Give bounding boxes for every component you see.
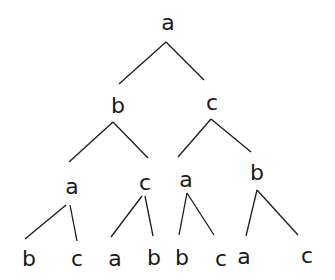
tree-node-n4: c bbox=[139, 170, 151, 195]
tree-node-n5: a bbox=[179, 167, 192, 192]
tree-node-n14: c bbox=[301, 243, 313, 268]
tree-edge-n3-n7 bbox=[25, 205, 66, 239]
tree-nodes: abcacabbcabbcac bbox=[22, 10, 313, 271]
tree-node-n11: b bbox=[175, 245, 189, 270]
tree-edge-n0-n2 bbox=[166, 42, 204, 80]
tree-node-n10: b bbox=[147, 245, 161, 270]
tree-node-n3: a bbox=[65, 174, 78, 199]
tree-node-n12: c bbox=[215, 246, 227, 271]
tree-node-n13: a bbox=[237, 244, 250, 269]
tree-edge-n3-n8 bbox=[70, 205, 77, 241]
tree-node-n1: b bbox=[111, 93, 125, 118]
tree-diagram: abcacabbcabbcac bbox=[0, 0, 335, 280]
tree-edge-n5-n11 bbox=[179, 193, 187, 235]
tree-node-n7: b bbox=[22, 246, 36, 271]
tree-edge-n4-n9 bbox=[111, 196, 142, 237]
tree-edge-n0-n1 bbox=[119, 42, 166, 84]
tree-edge-n1-n4 bbox=[113, 122, 148, 158]
tree-edge-n6-n14 bbox=[257, 190, 298, 235]
tree-edge-n2-n5 bbox=[178, 119, 211, 157]
tree-node-n9: a bbox=[108, 246, 121, 271]
tree-node-n2: c bbox=[206, 90, 218, 115]
tree-edge-n6-n13 bbox=[246, 190, 257, 236]
tree-edge-n5-n12 bbox=[187, 193, 214, 235]
tree-edges bbox=[25, 42, 298, 241]
tree-node-n0: a bbox=[161, 10, 174, 35]
tree-edge-n1-n3 bbox=[69, 122, 113, 162]
tree-edge-n4-n10 bbox=[145, 196, 153, 236]
tree-node-n6: b bbox=[250, 160, 264, 185]
tree-edge-n2-n6 bbox=[211, 119, 251, 152]
tree-node-n8: c bbox=[71, 246, 83, 271]
